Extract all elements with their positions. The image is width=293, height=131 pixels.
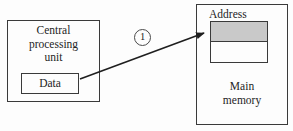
main-memory-label: Main memory [197,79,287,107]
cpu-box: Central processing unit Data [7,20,100,102]
memory-cell-empty [211,42,267,62]
data-register-box: Data [21,73,79,94]
step-1-label: 1 [140,32,145,43]
address-label: Address [209,8,287,21]
memory-cells [210,21,268,63]
diagram-canvas: Central processing unit Data Address Mai… [0,0,293,131]
cpu-label: Central processing unit [8,24,99,65]
data-register-label: Data [39,77,61,89]
memory-cell-shaded [211,22,267,42]
main-memory-box: Address Main memory [196,4,288,125]
step-1-badge: 1 [134,29,151,46]
